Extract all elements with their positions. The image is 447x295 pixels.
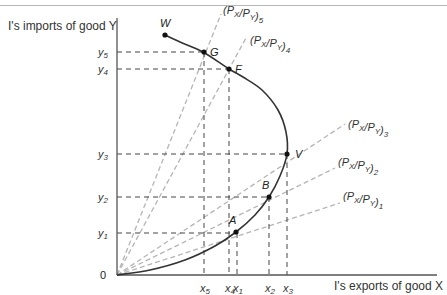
point-w-label: W [160, 17, 172, 29]
price-ray-2 [117, 168, 335, 275]
y-tick-1: y1 [97, 227, 108, 241]
offer-curve-diagram: (PX/PY)5(PX/PY)4(PX/PY)3(PX/PY)2(PX/PY)1… [0, 0, 447, 295]
x-tick-5: x5 [199, 282, 211, 295]
point-v-label: V [295, 148, 304, 160]
y-tick-5: y5 [97, 46, 109, 60]
offer-curve-line [117, 35, 288, 275]
price-ray-3 [117, 124, 345, 275]
price-ray-label-5: (PX/PY)5 [223, 4, 264, 25]
point-b-label: B [262, 179, 269, 191]
offer-curve [117, 35, 288, 275]
price-rays: (PX/PY)5(PX/PY)4(PX/PY)3(PX/PY)2(PX/PY)1 [117, 4, 389, 275]
origin-label: 0 [100, 269, 106, 281]
point-w-marker [162, 32, 167, 37]
point-g-label: G [210, 46, 219, 58]
point-a-label: A [228, 214, 236, 226]
point-b-marker [266, 194, 271, 199]
guide-lines [117, 52, 287, 275]
point-a-marker [233, 229, 238, 234]
x-axis-title: I's exports of good X [334, 279, 443, 293]
y-axis-title: I's imports of good Y [8, 19, 117, 33]
axis-labels: I's imports of good Y I's exports of goo… [8, 19, 443, 295]
price-ray-label-4: (PX/PY)4 [250, 34, 291, 55]
point-g-marker [201, 49, 206, 54]
point-f-marker [226, 66, 231, 71]
axes [117, 18, 437, 275]
point-v-marker [284, 151, 289, 156]
x-tick-2: x2 [264, 282, 276, 295]
x-tick-1: x1 [232, 282, 243, 295]
point-f-label: F [235, 63, 243, 75]
price-ray-label-1: (PX/PY)1 [343, 190, 383, 211]
price-ray-label-3: (PX/PY)3 [348, 118, 389, 139]
y-tick-4: y4 [97, 63, 109, 77]
y-tick-2: y2 [97, 191, 109, 205]
x-tick-3: x3 [282, 282, 294, 295]
y-tick-3: y3 [97, 148, 109, 162]
price-ray-label-2: (PX/PY)2 [338, 156, 379, 177]
